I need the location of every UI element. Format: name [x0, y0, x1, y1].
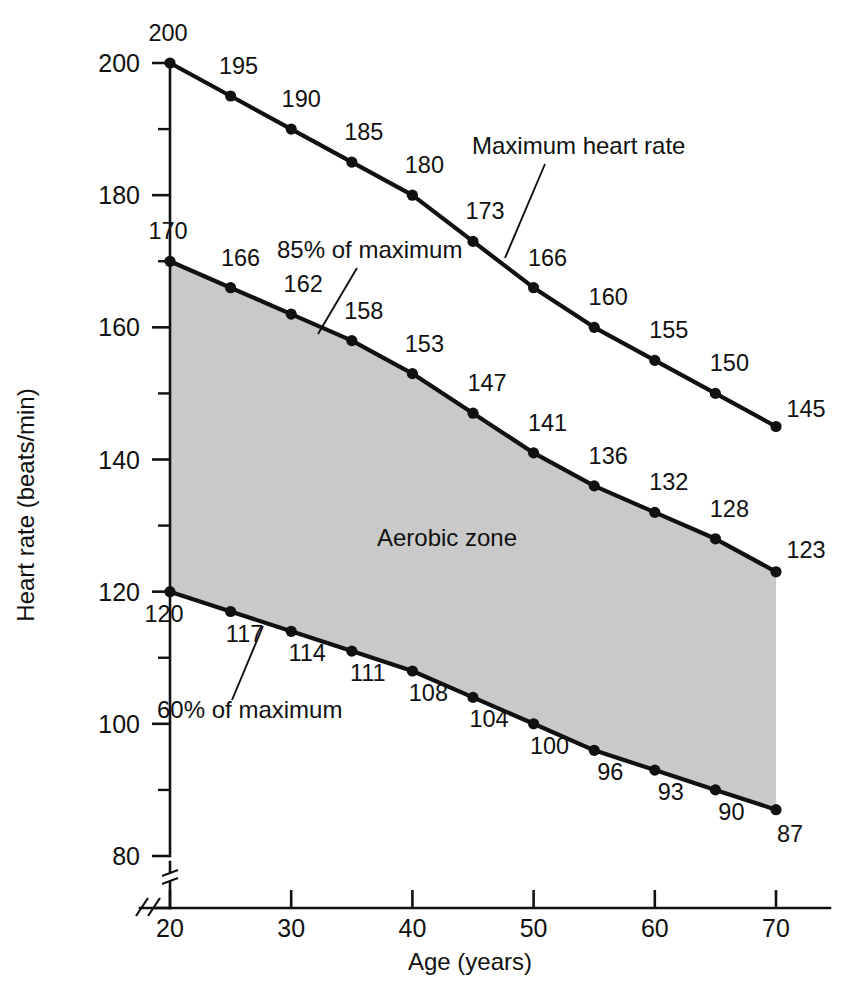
y-tick-label: 120 — [98, 578, 140, 606]
data-point-label: 104 — [469, 706, 508, 732]
data-point-marker — [710, 388, 721, 399]
data-point-label: 155 — [649, 317, 688, 343]
data-point-marker — [225, 90, 236, 101]
x-tick-label: 20 — [156, 914, 184, 942]
data-point-marker — [286, 124, 297, 135]
data-point-label: 170 — [148, 218, 187, 244]
data-point-marker — [407, 665, 418, 676]
data-point-marker — [225, 282, 236, 293]
y-tick-label: 180 — [98, 181, 140, 209]
x-axis-title: Age (years) — [408, 948, 532, 975]
data-point-marker — [225, 606, 236, 617]
data-point-marker — [407, 190, 418, 201]
data-point-label: 117 — [226, 621, 263, 647]
data-point-marker — [164, 586, 175, 597]
data-point-label: 195 — [219, 53, 258, 79]
data-point-label: 128 — [710, 496, 749, 522]
data-point-label: 153 — [405, 331, 444, 357]
y-tick-label: 140 — [98, 446, 140, 474]
data-point-marker — [589, 480, 600, 491]
data-point-label: 100 — [530, 733, 569, 759]
x-axis: 203040506070 Age (years) — [136, 890, 830, 975]
y-tick-label: 80 — [112, 842, 140, 870]
data-point-label: 190 — [282, 86, 321, 112]
data-point-label: 114 — [288, 640, 325, 666]
data-point-label: 185 — [344, 119, 383, 145]
data-point-label: 145 — [786, 396, 825, 422]
data-point-label: 141 — [528, 410, 567, 436]
annotation-maximum-heart-rate-label: Maximum heart rate — [472, 132, 685, 159]
data-point-marker — [286, 309, 297, 320]
y-axis-title: Heart rate (beats/min) — [12, 388, 39, 621]
data-point-marker — [649, 765, 660, 776]
annotation-85-percent-label: 85% of maximum — [277, 236, 462, 263]
x-tick-label: 50 — [520, 914, 548, 942]
data-point-label: 158 — [344, 298, 383, 324]
data-point-marker — [467, 236, 478, 247]
data-point-marker — [528, 447, 539, 458]
y-tick-label: 200 — [98, 49, 140, 77]
data-point-marker — [770, 421, 781, 432]
data-point-marker — [467, 408, 478, 419]
data-point-marker — [407, 368, 418, 379]
data-point-label: 132 — [649, 469, 688, 495]
data-point-label: 120 — [144, 601, 183, 627]
y-axis-tick-labels: 80100120140160180200 — [98, 49, 140, 870]
data-point-marker — [528, 282, 539, 293]
data-point-marker — [770, 566, 781, 577]
data-point-marker — [770, 804, 781, 815]
annotation-maximum-heart-rate: Maximum heart rate — [472, 132, 685, 258]
data-point-label: 111 — [350, 660, 386, 686]
data-point-marker — [589, 322, 600, 333]
data-point-label: 173 — [465, 198, 504, 224]
data-point-label: 93 — [658, 779, 684, 805]
data-point-marker — [346, 335, 357, 346]
data-point-label: 166 — [221, 245, 260, 271]
data-point-marker — [346, 157, 357, 168]
data-point-label: 160 — [589, 284, 628, 310]
data-point-marker — [649, 355, 660, 366]
data-point-label: 180 — [405, 152, 444, 178]
data-point-label: 166 — [528, 245, 567, 271]
annotation-60-percent-label: 60% of maximum — [157, 696, 342, 723]
y-axis-ticks — [152, 63, 170, 856]
x-tick-label: 60 — [641, 914, 669, 942]
data-point-marker — [164, 256, 175, 267]
aerobic-zone-label: Aerobic zone — [377, 524, 517, 551]
x-tick-label: 30 — [277, 914, 305, 942]
x-tick-label: 70 — [762, 914, 790, 942]
data-point-label: 147 — [467, 370, 506, 396]
data-point-marker — [286, 626, 297, 637]
data-point-label: 87 — [777, 821, 803, 847]
y-tick-label: 160 — [98, 313, 140, 341]
data-point-label: 123 — [786, 537, 825, 563]
data-point-label: 108 — [409, 680, 448, 706]
x-tick-label: 40 — [398, 914, 426, 942]
data-point-marker — [528, 718, 539, 729]
data-point-marker — [649, 507, 660, 518]
data-point-marker — [467, 692, 478, 703]
data-point-label: 136 — [589, 443, 628, 469]
x-axis-tick-labels: 203040506070 — [156, 914, 790, 942]
data-point-label: 96 — [597, 759, 623, 785]
data-point-label: 90 — [718, 799, 744, 825]
data-point-label: 162 — [284, 271, 323, 297]
chart-figure: 80100120140160180200 Heart rate (beats/m… — [0, 0, 862, 998]
heart-rate-aerobic-zone-chart: 80100120140160180200 Heart rate (beats/m… — [0, 0, 862, 998]
data-point-label: 150 — [710, 350, 749, 376]
x-axis-ticks — [170, 890, 776, 908]
data-point-marker — [346, 646, 357, 657]
data-point-marker — [710, 784, 721, 795]
y-axis: 80100120140160180200 Heart rate (beats/m… — [12, 49, 178, 908]
y-tick-label: 100 — [98, 710, 140, 738]
data-point-marker — [710, 533, 721, 544]
data-point-label: 200 — [148, 20, 187, 46]
data-point-marker — [164, 57, 175, 68]
data-point-marker — [589, 745, 600, 756]
